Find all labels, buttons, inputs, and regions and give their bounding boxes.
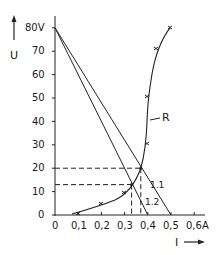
curve-label-r: R	[162, 112, 170, 123]
x-tick-label: 0,1	[71, 221, 87, 231]
chart-canvas	[0, 0, 223, 255]
line-label-1-1: 1.1	[150, 181, 164, 190]
u-axis-arrow-icon	[12, 15, 17, 40]
x-tick-label: 0,4	[140, 221, 156, 231]
x-tick-label: 0,6A	[186, 221, 209, 231]
y-tick-label: 30	[32, 140, 45, 150]
x-tick-label: 0	[52, 221, 58, 231]
y-tick-label: 40	[32, 117, 45, 127]
y-tick-label: 20	[32, 163, 45, 173]
y-tick-label: 10	[32, 187, 45, 197]
x-axis-label: I	[175, 237, 178, 248]
x-tick-label: 0,5	[163, 221, 179, 231]
operating-point-1-1	[139, 167, 142, 170]
y-axis-label: U	[10, 50, 18, 61]
y-tick-label: 60	[32, 70, 45, 80]
r-label-leader	[150, 118, 160, 120]
x-tick-label: 0,3	[117, 221, 133, 231]
load-line-1-2	[55, 28, 148, 215]
x-tick-label: 0,2	[94, 221, 110, 231]
y-tick-label: 70	[32, 46, 45, 56]
y-tick-label: 0	[38, 210, 44, 220]
i-axis-arrow-icon	[184, 240, 205, 245]
operating-point-1-2	[130, 183, 133, 186]
line-label-1-2: 1.2	[145, 198, 159, 207]
y-tick-label: 80V	[25, 23, 45, 33]
y-tick-label: 50	[32, 93, 45, 103]
